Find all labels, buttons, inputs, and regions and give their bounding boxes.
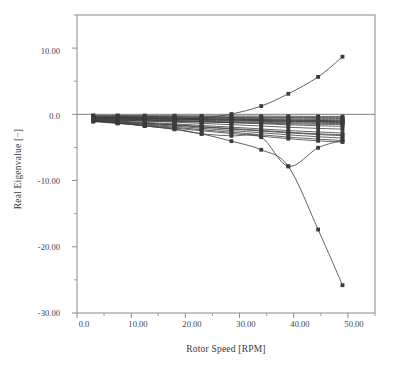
data-point-marker [116, 116, 120, 120]
x-tick-label: 20.00 [170, 319, 214, 329]
series-line [93, 57, 342, 119]
data-point-marker [316, 114, 320, 118]
data-point-marker [316, 146, 320, 150]
data-point-marker [173, 117, 177, 121]
data-point-marker [341, 140, 345, 144]
data-point-marker [259, 119, 263, 123]
data-point-marker [259, 134, 263, 138]
data-point-marker [230, 118, 234, 122]
data-point-marker [341, 115, 345, 119]
x-tick-label: 40.00 [278, 319, 322, 329]
y-tick-label: -10.00 [12, 176, 60, 186]
data-point-marker [316, 139, 320, 143]
x-tick-label: 30.00 [224, 319, 268, 329]
data-point-marker [259, 127, 263, 131]
data-point-marker [286, 125, 290, 129]
series-line [93, 121, 342, 286]
data-point-marker [230, 139, 234, 143]
data-point-marker [230, 132, 234, 136]
marker-group [91, 55, 344, 287]
data-point-marker [200, 124, 204, 128]
data-point-marker [316, 130, 320, 134]
data-point-marker [143, 117, 147, 121]
data-point-marker [316, 75, 320, 79]
data-point-marker [316, 126, 320, 130]
axis-ticks [72, 15, 375, 318]
data-point-marker [286, 137, 290, 141]
y-tick-label: 10.00 [12, 46, 60, 56]
data-point-marker [286, 129, 290, 133]
y-tick-label: -20.00 [12, 242, 60, 252]
data-point-marker [316, 120, 320, 124]
data-point-marker [259, 104, 263, 108]
data-point-marker [200, 129, 204, 133]
data-point-marker [286, 92, 290, 96]
data-point-marker [341, 120, 345, 124]
x-tick-label: 50.00 [332, 319, 376, 329]
series-group [93, 57, 342, 285]
data-point-marker [230, 125, 234, 129]
data-point-marker [259, 148, 263, 152]
data-point-marker [341, 55, 345, 59]
plot-frame [77, 15, 375, 313]
data-point-marker [286, 114, 290, 118]
y-tick-label: -30.00 [12, 308, 60, 318]
data-point-marker [341, 283, 345, 287]
y-tick-label: 0.0 [12, 111, 60, 121]
data-point-marker [286, 119, 290, 123]
x-tick-label: 0.0 [62, 319, 106, 329]
data-point-marker [286, 164, 290, 168]
x-tick-label: 10.00 [116, 319, 160, 329]
eigenvalue-chart: Real Eigenvalue [−] Rotor Speed [RPM] 10… [0, 0, 395, 371]
data-point-marker [173, 122, 177, 126]
data-point-marker [316, 228, 320, 232]
data-point-marker [259, 114, 263, 118]
data-point-marker [341, 131, 345, 135]
data-point-marker [143, 121, 147, 125]
x-axis-title: Rotor Speed [RPM] [77, 344, 375, 354]
data-point-marker [91, 116, 95, 120]
data-point-marker [341, 127, 345, 131]
series-line [93, 122, 342, 142]
data-point-marker [200, 118, 204, 122]
